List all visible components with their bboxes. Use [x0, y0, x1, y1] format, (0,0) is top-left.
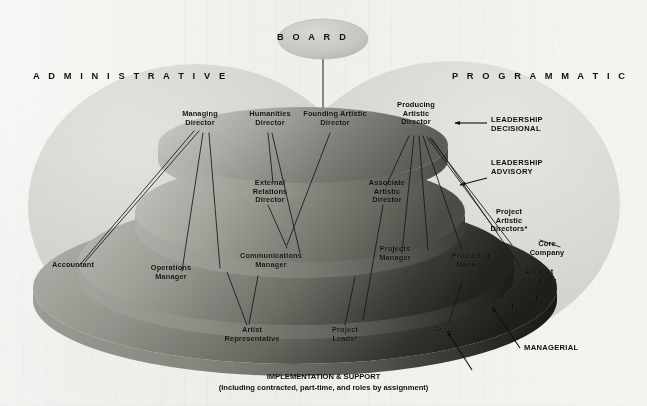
role-accountant: Accountant — [42, 261, 104, 270]
role-production-manager: Production Manager — [440, 252, 504, 269]
role-project-leads: Project Leads* — [315, 326, 375, 343]
role-founding-artistic-director: Founding Artistic Director — [293, 110, 377, 127]
role-communications-manager: Communications Manager — [231, 252, 311, 269]
role-operations-manager: Operations Manager — [140, 264, 202, 281]
role-external-relations-director: External Relations Director — [239, 179, 301, 205]
annotation-leadership-advisory: LEADERSHIP ADVISORY — [491, 158, 543, 176]
role-project-artistic-directors: Project Artistic Directors* — [480, 208, 538, 234]
role-faculty: Faculty* — [422, 326, 476, 335]
role-core-company: Core Company — [523, 240, 571, 257]
role-production-team: Production Team — [492, 294, 548, 311]
role-projects-manager: Projects Manager — [364, 245, 426, 262]
annotation-leadership-decisional: LEADERSHIP DECISIONAL — [491, 115, 543, 133]
board-label: B O A R D — [277, 32, 349, 42]
header-programmatic: P R O G R A M M A T I C — [452, 71, 628, 81]
annotation-implementation-support-note: (Including contracted, part-time, and ro… — [0, 383, 647, 393]
role-associate-artistic-director: Associate Artistic Director — [356, 179, 418, 205]
role-producing-artistic-director: Producing Artistic Director — [384, 101, 448, 127]
annotation-implementation-support: IMPLEMENTATION & SUPPORT — [0, 372, 647, 382]
role-managing-director: Managing Director — [168, 110, 232, 127]
header-administrative: A D M I N I S T R A T I V E — [33, 71, 228, 81]
annotation-managerial: MANAGERIAL — [524, 343, 578, 352]
role-artist-representative: Artist Representative — [215, 326, 289, 343]
org-diagram-canvas: B O A R D A D M I N I S T R A T I V E P … — [0, 0, 647, 406]
role-adjunct-company: Adjunct Company — [512, 268, 566, 285]
